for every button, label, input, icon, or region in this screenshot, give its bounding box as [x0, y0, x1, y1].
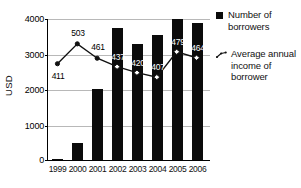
legend-label-number-of-borrowers: Number of borrowers: [228, 9, 301, 32]
x-tick-label-2001: 2001: [89, 164, 107, 174]
point-label-2006: 464: [191, 43, 204, 53]
point-label-2003: 420: [131, 58, 144, 68]
x-tick-label-2004: 2004: [149, 164, 167, 174]
point-label-2002: 437: [111, 52, 124, 62]
point-label-2004: 407: [151, 62, 164, 72]
filled-square-marker-icon: [216, 12, 223, 19]
line-with-markers-icon: [216, 50, 227, 59]
x-tick-label-2000: 2000: [69, 164, 87, 174]
y-axis-title: USD: [3, 75, 14, 96]
point-label-1999: 411: [52, 71, 65, 81]
x-tick-label-2005: 2005: [169, 164, 187, 174]
legend-item-number-of-borrowers: Number of borrowers: [216, 9, 301, 32]
x-tick-label-2002: 2002: [109, 164, 127, 174]
point-label-2001: 461: [91, 42, 104, 52]
x-tick-label-1999: 1999: [49, 164, 67, 174]
x-tick-label-2006: 2006: [189, 164, 207, 174]
point-label-2005: 479: [171, 37, 184, 47]
y-tick-label-2000: 2000: [25, 85, 44, 95]
line-series-average-annual-income: [48, 19, 210, 160]
legend-label-average-annual-income: Average annual income of borrower: [231, 48, 301, 83]
y-tick-label-1000: 1000: [25, 121, 44, 131]
y-tick-label-3000: 3000: [25, 50, 44, 60]
chart-legend: Number of borrowers Average annual incom…: [216, 9, 301, 99]
point-label-2000: 503: [71, 28, 84, 38]
plot-area: 4000 3000 2000 1000 0 4: [47, 19, 210, 161]
x-tick-label-2003: 2003: [129, 164, 147, 174]
legend-item-average-annual-income: Average annual income of borrower: [216, 48, 301, 83]
y-tick-label-4000: 4000: [25, 14, 44, 24]
chart-figure: USD 4000 3000 2000 1000 0: [0, 0, 301, 188]
y-tick-label-0: 0: [39, 155, 44, 165]
